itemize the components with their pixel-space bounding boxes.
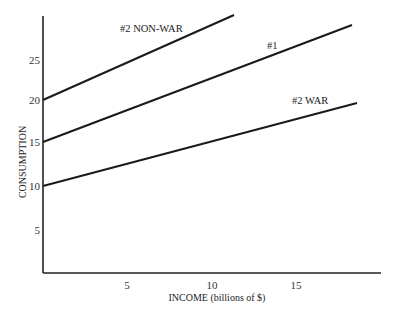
y-tick-label: 5 — [35, 224, 41, 236]
series-label-1: #1 — [267, 40, 278, 51]
y-tick-label: 25 — [29, 54, 41, 66]
y-tick-label: 20 — [29, 94, 41, 106]
y-tick-label: 10 — [29, 180, 41, 192]
x-axis-title: INCOME (billions of $) — [169, 292, 266, 304]
x-tick-label: 10 — [207, 279, 219, 291]
x-tick-label: 5 — [124, 279, 130, 291]
series-line-2-war — [43, 103, 357, 186]
y-axis-title: CONSUMPTION — [17, 126, 28, 198]
x-tick-label: 15 — [291, 279, 303, 291]
series-label-2-war: #2 WAR — [292, 95, 328, 106]
consumption-income-chart: 5 10 15 20 25 5 10 15 INCOME (billions o… — [0, 0, 394, 313]
series-label-2-non-war: #2 NON-WAR — [120, 23, 183, 34]
y-tick-label: 15 — [29, 136, 41, 148]
series-line-1 — [43, 25, 352, 142]
